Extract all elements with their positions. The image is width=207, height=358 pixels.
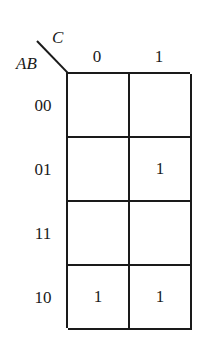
cell-01-1: 1 (130, 138, 192, 202)
row-header-00: 00 (28, 97, 58, 114)
row-variable-label: AB (16, 55, 37, 72)
column-variable-label: C (52, 29, 63, 46)
cell-00-1 (130, 74, 192, 138)
row-header-11: 11 (28, 225, 58, 242)
cell-01-0 (68, 138, 130, 202)
karnaugh-map: C AB 0 1 00 01 11 10 1 1 1 (0, 0, 207, 358)
cell-11-0 (68, 202, 130, 266)
row-header-10: 10 (28, 289, 58, 306)
row-header-01: 01 (28, 161, 58, 178)
cell-11-1 (130, 202, 192, 266)
kmap-grid: 1 1 1 (66, 72, 190, 328)
cell-00-0 (68, 74, 130, 138)
cell-10-0: 1 (68, 266, 130, 330)
column-header-1: 1 (128, 48, 190, 65)
column-header-0: 0 (66, 48, 128, 65)
cell-10-1: 1 (130, 266, 192, 330)
